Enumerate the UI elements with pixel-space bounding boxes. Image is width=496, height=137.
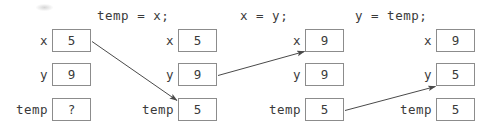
step3-box-temp: 5 (305, 98, 344, 121)
step4-value-y: 5 (437, 64, 474, 85)
step3-value-y: 9 (306, 64, 343, 85)
step1-box-x: 5 (52, 29, 91, 52)
step4-value-x: 9 (437, 30, 474, 51)
step1-label-y: y (10, 63, 48, 87)
step4-label-y: y (394, 63, 432, 87)
step3-box-y: 9 (305, 63, 344, 86)
step2-label-temp: temp (128, 98, 174, 122)
step3-value-x: 9 (306, 30, 343, 51)
step1-value-y: 9 (53, 64, 90, 85)
step4-box-x: 9 (436, 29, 475, 52)
step2-box-y: 9 (178, 63, 217, 86)
step4-box-y: 5 (436, 63, 475, 86)
step-title-x-equals-y: x = y; (240, 10, 288, 23)
step3-label-x: x (263, 29, 301, 53)
step1-value-x: 5 (53, 30, 90, 51)
step1-label-temp: temp (2, 98, 48, 122)
step3-label-temp: temp (255, 98, 301, 122)
step-title-y-equals-temp: y = temp; (355, 10, 427, 23)
step4-box-temp: 5 (436, 98, 475, 121)
step1-value-temp: ? (53, 99, 90, 120)
step4-label-x: x (394, 29, 432, 53)
step2-box-temp: 5 (178, 98, 217, 121)
step3-box-x: 9 (305, 29, 344, 52)
step2-value-y: 9 (179, 64, 216, 85)
step-title-temp-equals-x: temp = x; (97, 10, 169, 23)
step1-label-x: x (10, 29, 48, 53)
step4-label-temp: temp (386, 98, 432, 122)
step2-value-x: 5 (179, 30, 216, 51)
step4-value-temp: 5 (437, 99, 474, 120)
step2-label-x: x (136, 29, 174, 53)
scan-artifact (36, 4, 53, 11)
step2-value-temp: 5 (179, 99, 216, 120)
swap-trace-diagram: temp = x; x = y; y = temp; x 5 y 9 temp … (0, 0, 496, 137)
step1-box-temp: ? (52, 98, 91, 121)
step1-box-y: 9 (52, 63, 91, 86)
step2-label-y: y (136, 63, 174, 87)
step3-label-y: y (263, 63, 301, 87)
step2-box-x: 5 (178, 29, 217, 52)
step3-value-temp: 5 (306, 99, 343, 120)
